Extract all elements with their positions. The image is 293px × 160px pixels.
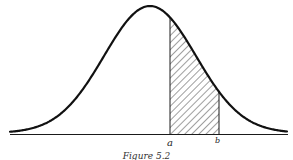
label-a: a (167, 138, 173, 148)
normal-curve-figure (0, 0, 293, 160)
figure-caption: Figure 5.2 (0, 152, 293, 160)
label-b: b (215, 137, 220, 145)
bell-curve (10, 6, 287, 132)
shaded-area (170, 17, 219, 134)
